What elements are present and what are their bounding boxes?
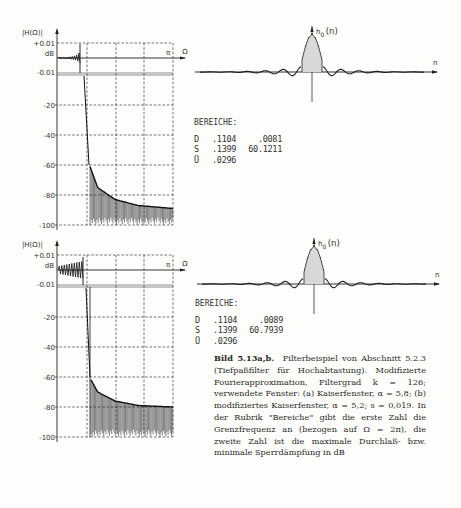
tick-label: -80	[44, 192, 55, 200]
tick-label: -100	[39, 222, 55, 230]
magnitude-plot-0: |H(Ω)|+0.01dB-0.01-20-40-60-80-100πΩ	[22, 28, 188, 230]
figure-caption-text: Filterbeispiel von Abschnitt 5.2.3 (Tief…	[214, 353, 426, 457]
bereiche-table-a: BEREICHE: D.1104.0081 S.139960.1211 Ü.02…	[194, 118, 282, 165]
bereiche-row-ue: Ü.0296	[194, 155, 282, 166]
y-axis-arrow-icon	[55, 28, 59, 34]
main-lobe	[302, 34, 322, 72]
x-axis-label: Ω	[182, 260, 188, 268]
bereiche-row-ue: Ü.0296	[195, 336, 283, 347]
tick-label: +0.01	[34, 40, 55, 48]
tick-label: -0.01	[37, 281, 55, 289]
transition-band	[86, 288, 90, 377]
h0-axis-label: h0(n)	[316, 26, 338, 38]
tick-label: -60	[44, 162, 55, 170]
tick-label: -60	[44, 374, 55, 382]
stopband-lobes	[90, 166, 173, 225]
y-axis-label: |H(Ω)|	[22, 241, 43, 249]
bereiche-title: BEREICHE:	[194, 118, 282, 129]
tick-label: -20	[44, 102, 55, 110]
n-axis-label: n	[435, 271, 439, 279]
y-axis-arrow-icon	[55, 240, 59, 246]
tick-label: +0.01	[34, 252, 55, 260]
h-axis-arrow-icon	[312, 238, 315, 244]
y-axis-label: |H(Ω)|	[22, 29, 43, 37]
pi-tick-label: π	[166, 261, 171, 269]
bereiche-title: BEREICHE:	[195, 299, 283, 310]
bereiche-row-s: S.139960.1211	[194, 144, 282, 155]
bereiche-table-b: BEREICHE: D.1104.0089 S.139960.7939 Ü.02…	[195, 299, 283, 346]
n-axis-label: n	[433, 59, 437, 67]
stopband-envelope	[91, 380, 173, 407]
tick-label: -40	[44, 132, 55, 140]
magnitude-plot-1: |H(Ω)|+0.01dB-0.01-20-40-60-80-100πΩ	[22, 240, 188, 442]
n-axis-arrow-icon	[434, 282, 440, 286]
figure-caption: Bild 5.13a,b. Filterbeispiel von Abschni…	[214, 353, 426, 459]
main-lobe	[304, 246, 324, 284]
transition-band	[84, 76, 89, 165]
tick-label: -100	[39, 434, 55, 442]
tick-label: -0.01	[37, 69, 55, 77]
bereiche-row-s: S.139960.7939	[195, 325, 283, 336]
impulse-plot-0: h0(n)n	[195, 26, 438, 102]
h-axis-arrow-icon	[310, 26, 313, 32]
pi-tick-label: π	[166, 49, 171, 57]
x-axis-label: Ω	[182, 48, 188, 56]
tick-label: -20	[44, 314, 55, 322]
tick-label: -40	[44, 344, 55, 352]
bereiche-row-d: D.1104.0089	[195, 315, 283, 326]
unit-label: dB	[45, 262, 54, 270]
stopband-lobes	[91, 380, 173, 437]
bereiche-row-d: D.1104.0081	[194, 134, 282, 145]
n-axis-arrow-icon	[432, 70, 438, 74]
unit-label: dB	[45, 50, 54, 58]
x-axis-arrow-icon	[180, 56, 186, 59]
figure-label: Bild 5.13a,b.	[214, 353, 274, 363]
x-axis-arrow-icon	[180, 268, 186, 271]
tick-label: -80	[44, 404, 55, 412]
h0-axis-label: h0(n)	[318, 238, 340, 250]
